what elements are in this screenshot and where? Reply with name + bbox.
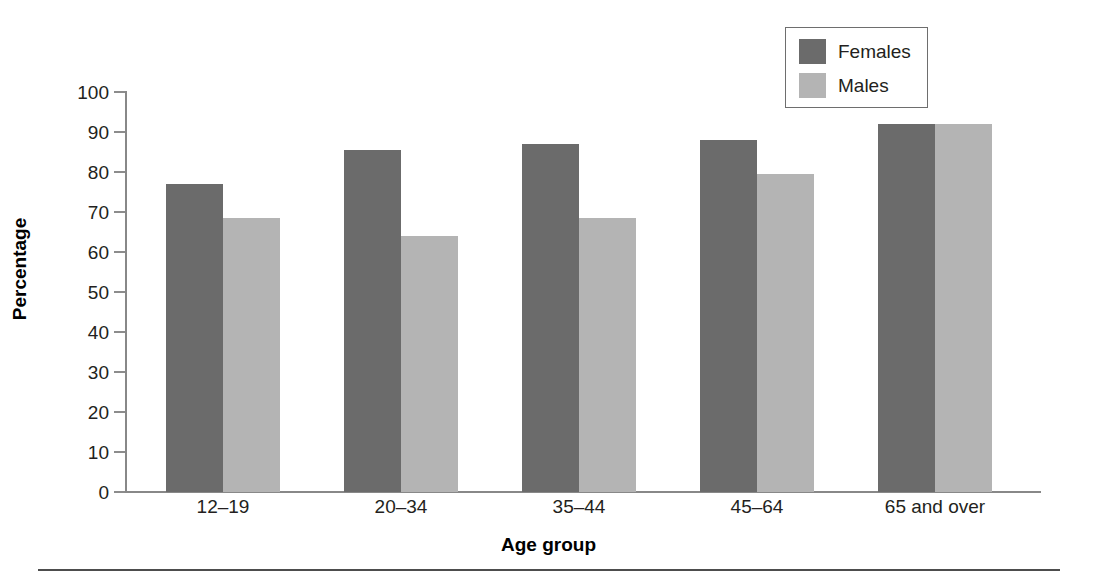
y-tick-label: 80 — [88, 163, 109, 182]
y-tick-label: 10 — [88, 443, 109, 462]
legend-label-males: Males — [838, 75, 889, 97]
y-tick-label: 40 — [88, 323, 109, 342]
bar-group — [878, 92, 992, 492]
bar-males-1 — [401, 236, 458, 492]
x-axis-title: Age group — [0, 534, 1097, 556]
bar-males-4 — [935, 124, 992, 492]
footer-rule — [38, 569, 1060, 571]
y-tick-label: 50 — [88, 283, 109, 302]
y-tick-mark — [114, 491, 125, 493]
bar-group — [522, 92, 636, 492]
plot-area: 010203040506070809010012–1920–3435–4445–… — [127, 92, 1040, 492]
bar-females-1 — [344, 150, 401, 492]
y-tick-label: 70 — [88, 203, 109, 222]
bar-females-3 — [700, 140, 757, 492]
x-tick-label: 65 and over — [885, 496, 985, 518]
bar-group — [344, 92, 458, 492]
y-tick-mark — [114, 91, 125, 93]
y-tick-label: 0 — [98, 483, 109, 502]
x-tick-label: 20–34 — [375, 496, 428, 518]
legend-entry-females: Females — [799, 39, 911, 64]
bar-males-3 — [757, 174, 814, 492]
bar-chart-figure: 010203040506070809010012–1920–3435–4445–… — [0, 0, 1097, 587]
light-gray-swatch-icon — [799, 73, 826, 98]
y-tick-label: 100 — [77, 83, 109, 102]
legend-label-females: Females — [838, 41, 911, 63]
y-tick-mark — [114, 211, 125, 213]
bar-females-0 — [166, 184, 223, 492]
x-tick-label: 12–19 — [197, 496, 250, 518]
y-axis-title: Percentage — [9, 189, 31, 349]
y-tick-mark — [114, 171, 125, 173]
y-tick-label: 60 — [88, 243, 109, 262]
bar-females-2 — [522, 144, 579, 492]
dark-gray-swatch-icon — [799, 39, 826, 64]
bar-males-2 — [579, 218, 636, 492]
y-tick-mark — [114, 131, 125, 133]
x-tick-label: 45–64 — [731, 496, 784, 518]
y-tick-mark — [114, 251, 125, 253]
bar-males-0 — [223, 218, 280, 492]
y-tick-label: 30 — [88, 363, 109, 382]
bar-group — [700, 92, 814, 492]
y-tick-label: 20 — [88, 403, 109, 422]
y-tick-label: 90 — [88, 123, 109, 142]
chart-legend: Females Males — [785, 27, 928, 108]
y-tick-mark — [114, 411, 125, 413]
x-tick-label: 35–44 — [553, 496, 606, 518]
y-tick-mark — [114, 331, 125, 333]
y-tick-mark — [114, 371, 125, 373]
y-tick-mark — [114, 291, 125, 293]
bar-group — [166, 92, 280, 492]
legend-entry-males: Males — [799, 73, 889, 98]
bar-females-4 — [878, 124, 935, 492]
y-tick-mark — [114, 451, 125, 453]
